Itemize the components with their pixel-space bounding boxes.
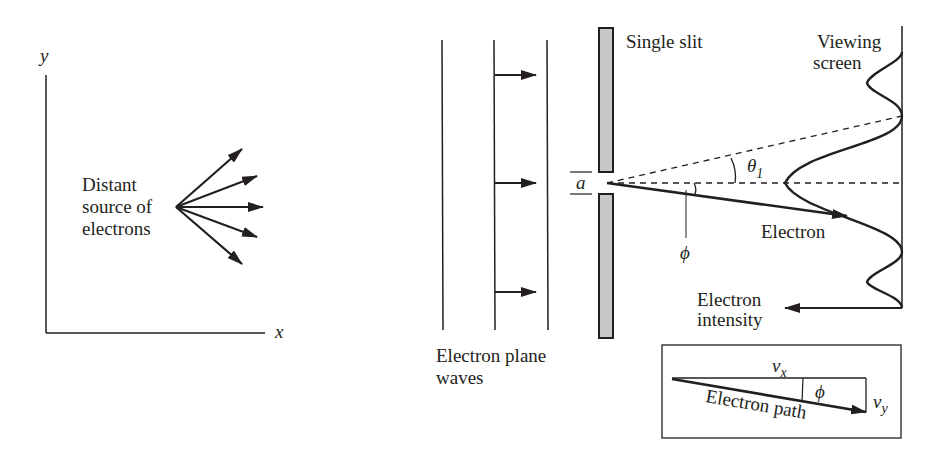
inset-phi-label: ϕ: [815, 381, 825, 402]
intensity-label-line2: intensity: [697, 309, 763, 330]
plane-waves-label: Electron plane: [436, 345, 546, 366]
slit-width-label: a: [576, 172, 586, 193]
plane-waves: [442, 40, 548, 330]
plane-waves-label-line2: waves: [436, 367, 483, 388]
theta-label: θ1: [747, 155, 763, 181]
slit-barrier-bottom: [599, 194, 613, 338]
y-axis-label: y: [38, 45, 49, 66]
wavefront-line: [494, 40, 495, 330]
svg-text:source of: source of: [82, 196, 153, 217]
viewing-screen-label-line2: screen: [813, 52, 862, 73]
source-arrows: [176, 149, 263, 264]
wavefront-line: [547, 40, 548, 330]
source-label: Distant source of electrons: [82, 174, 153, 239]
arrow-icon: [176, 207, 242, 264]
right-panel: Electron plane waves Single slit a Viewi…: [436, 26, 902, 388]
x-axis-label: x: [274, 321, 284, 342]
left-panel: y x Distant source of electrons: [38, 45, 284, 342]
phi-arc: [694, 183, 696, 194]
velocity-inset: vx vy ϕ Electron path: [662, 345, 901, 438]
intensity-label: Electron: [697, 289, 762, 310]
electron-trajectory: [607, 183, 847, 216]
arrow-icon: [176, 207, 257, 237]
inset-frame: [662, 345, 901, 438]
intensity-curve: [785, 52, 902, 308]
arrow-icon: [176, 176, 257, 207]
wavefront-line: [442, 40, 443, 330]
svg-text:electrons: electrons: [82, 218, 151, 239]
phi-label: ϕ: [680, 242, 690, 263]
theta-arc: [731, 158, 736, 183]
electron-label: Electron: [761, 221, 826, 242]
slit-barrier-top: [599, 28, 613, 172]
svg-text:Distant: Distant: [82, 174, 138, 195]
viewing-screen-label: Viewing: [817, 31, 882, 52]
diagram-canvas: y x Distant source of electrons Electron…: [0, 0, 943, 456]
arrow-icon: [176, 149, 242, 207]
single-slit-label: Single slit: [626, 31, 703, 52]
